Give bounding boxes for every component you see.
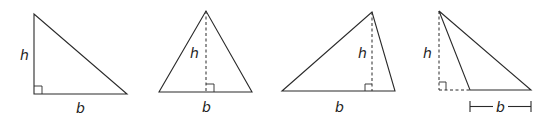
base-label: b xyxy=(496,99,505,115)
height-label: h xyxy=(358,45,367,61)
triangles-diagram: h b h b h b h b xyxy=(0,0,548,125)
height-label: h xyxy=(20,47,29,63)
right-angle-mark xyxy=(206,84,214,92)
base-label: b xyxy=(202,99,211,115)
right-angle-mark xyxy=(365,84,372,91)
isosceles-triangle: h b xyxy=(159,11,252,115)
scalene-triangle: h b xyxy=(282,12,395,115)
triangle-outline xyxy=(282,12,395,91)
right-angle-mark xyxy=(439,82,446,90)
right-triangle: h b xyxy=(20,14,127,116)
triangle-outline xyxy=(439,11,531,90)
height-label: h xyxy=(190,45,199,61)
height-label: h xyxy=(423,45,432,61)
base-label: b xyxy=(76,100,85,116)
right-angle-mark xyxy=(34,86,42,94)
base-label: b xyxy=(335,99,344,115)
triangle-outline xyxy=(34,14,127,94)
obtuse-triangle: h b xyxy=(423,11,531,115)
